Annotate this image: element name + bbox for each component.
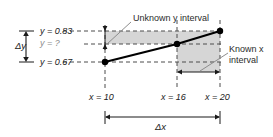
data-point-x20 [217,28,223,34]
known-x-interval-callout-line1: Known x [229,44,264,55]
delta-y-arrowhead-down [23,57,29,62]
x-label-20: x = 20 [205,93,230,102]
data-point-x10 [102,59,108,65]
x-label-16: x = 16 [161,93,186,102]
delta-x-label: Δx [155,122,166,132]
delta-x-arrowhead-left [105,115,110,120]
x-label-10: x = 10 [89,93,114,102]
interpolation-diagram: Δy y = 0.83 y = ? y = 0.67 Unknown y int… [0,0,273,137]
y-label-unknown: y = ? [40,39,60,48]
delta-y-label: Δy [15,41,26,51]
y-label-083: y = 0.83 [40,27,72,36]
data-point-x16 [174,41,180,47]
delta-x-arrowhead-right [215,115,220,120]
known-x-interval-callout-line2: interval [229,55,264,66]
unknown-y-arrowhead-up [103,26,108,31]
unknown-y-interval-callout: Unknown y interval [133,14,209,23]
delta-y-arrowhead-up [23,31,29,36]
unknown-y-arrowhead-down [103,44,108,49]
y-label-067: y = 0.67 [40,58,72,67]
